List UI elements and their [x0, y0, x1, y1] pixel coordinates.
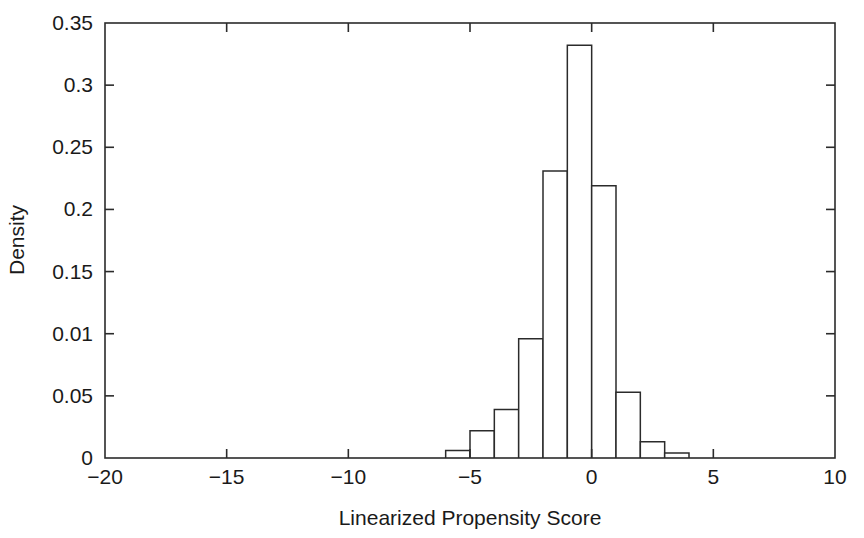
- histogram-bar: [640, 442, 664, 458]
- y-tick-label: 0.35: [52, 11, 93, 34]
- histogram-bar: [446, 451, 470, 458]
- y-tick-label: 0.2: [64, 197, 93, 220]
- y-tick-label: 0.15: [52, 260, 93, 283]
- histogram-bar: [519, 339, 543, 458]
- x-axis-title: Linearized Propensity Score: [339, 506, 602, 529]
- x-tick-label: 5: [707, 465, 719, 488]
- x-tick-label: −20: [87, 465, 123, 488]
- figure-container: 0.350.30.250.20.150.010.050 −20−15−10−50…: [0, 0, 864, 538]
- x-tick-label: −10: [331, 465, 367, 488]
- histogram-bar: [616, 392, 640, 458]
- x-tick-label: −5: [458, 465, 482, 488]
- histogram-chart: 0.350.30.250.20.150.010.050 −20−15−10−50…: [0, 0, 864, 538]
- y-axis-title: Density: [5, 204, 28, 275]
- y-tick-label: 0.25: [52, 135, 93, 158]
- y-tick-label: 0.05: [52, 384, 93, 407]
- histogram-bar: [470, 431, 494, 458]
- x-tick-label: 10: [823, 465, 846, 488]
- histogram-bar: [592, 186, 616, 458]
- histogram-bar: [543, 171, 567, 458]
- histogram-bar: [494, 410, 518, 458]
- histogram-bar: [567, 45, 591, 458]
- y-tick-label: 0.3: [64, 73, 93, 96]
- x-tick-label: −15: [209, 465, 245, 488]
- x-tick-label: 0: [586, 465, 598, 488]
- y-tick-label: 0.01: [52, 322, 93, 345]
